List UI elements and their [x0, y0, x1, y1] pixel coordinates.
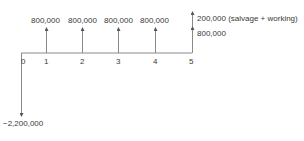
inflow-label-period-3: 800,000	[104, 16, 133, 25]
period-label-1: 1	[44, 57, 48, 66]
inflow-label-period-4: 800,000	[140, 16, 169, 25]
period-label-3: 3	[116, 57, 120, 66]
period-label-5: 5	[189, 57, 193, 66]
inflow-label-period-2: 800,000	[68, 16, 97, 25]
period-label-0: 0	[21, 57, 25, 66]
inflow-label-period-1: 800,000	[31, 16, 60, 25]
salvage-label-period-5: 200,000 (salvage + working)	[197, 14, 298, 23]
inflow-label-period-5: 800,000	[197, 29, 226, 38]
period-label-4: 4	[153, 57, 157, 66]
outflow-label-period-0: −2,200,000	[3, 119, 43, 128]
cash-flow-diagram: 0 1 2 3 4 5 800,000 800,000 800,000 800,…	[0, 0, 304, 141]
period-label-2: 2	[80, 57, 84, 66]
